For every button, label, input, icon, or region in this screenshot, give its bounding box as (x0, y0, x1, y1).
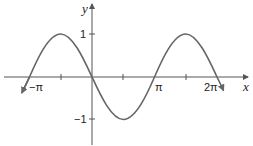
y-tick-label-neg1: −1 (74, 113, 87, 125)
x-tick-label-pi: π (155, 81, 163, 93)
x-tick-label-neg-pi: −π (29, 81, 43, 93)
y-axis-label: y (80, 1, 88, 16)
chart: −π π 2π 1 −1 x y (0, 0, 253, 146)
x-tick-label-2pi: 2π (204, 81, 218, 93)
x-axis-label: x (242, 79, 249, 94)
y-tick-label-1: 1 (80, 28, 86, 40)
